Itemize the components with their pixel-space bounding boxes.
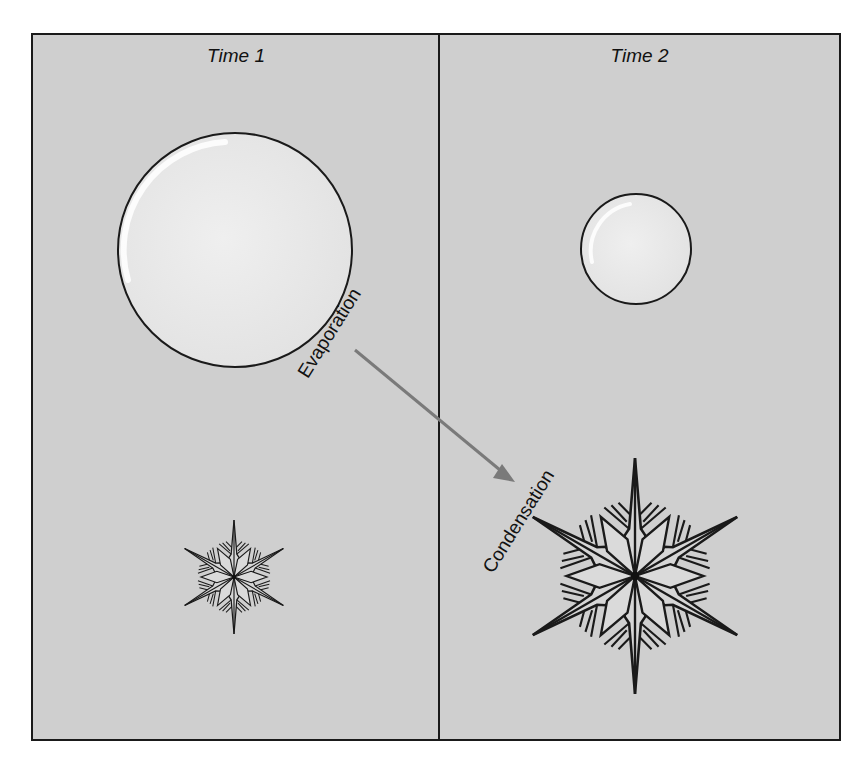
diagram-graphics [0,0,860,774]
small-droplet-icon [581,194,691,304]
transfer-arrow-icon [355,350,515,482]
small-snowflake-icon [177,520,291,634]
large-snowflake-icon [517,458,752,694]
